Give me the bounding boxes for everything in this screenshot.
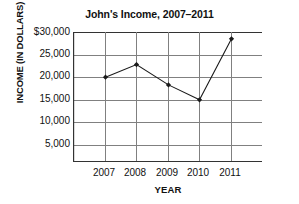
data-point-marker (166, 82, 171, 87)
data-point-marker (103, 75, 108, 80)
vertical-gridlines (74, 32, 263, 162)
data-point-marker (134, 62, 139, 67)
plot-svg (73, 32, 262, 162)
x-axis-title: YEAR (73, 184, 263, 195)
data-point-marker (229, 36, 234, 41)
y-tick-label: 10,000 (18, 116, 70, 126)
chart-figure: John's Income, 2007–2011 INCOME (IN DOLL… (0, 0, 299, 204)
y-tick-label: 20,000 (18, 71, 70, 81)
y-axis-tick-labels: $30,000 25,000 20,000 15,000 10,000 5,00… (16, 0, 70, 204)
y-tick-label: $30,000 (18, 27, 70, 37)
y-tick-label: 25,000 (18, 49, 70, 59)
y-tick-label: 5,000 (18, 139, 70, 149)
x-tick-label: 2011 (207, 167, 253, 178)
axis-lines (73, 32, 262, 162)
horizontal-gridlines (73, 33, 262, 146)
y-tick-label: 15,000 (18, 94, 70, 104)
plot-area (73, 32, 262, 162)
data-point-marker (197, 97, 202, 102)
